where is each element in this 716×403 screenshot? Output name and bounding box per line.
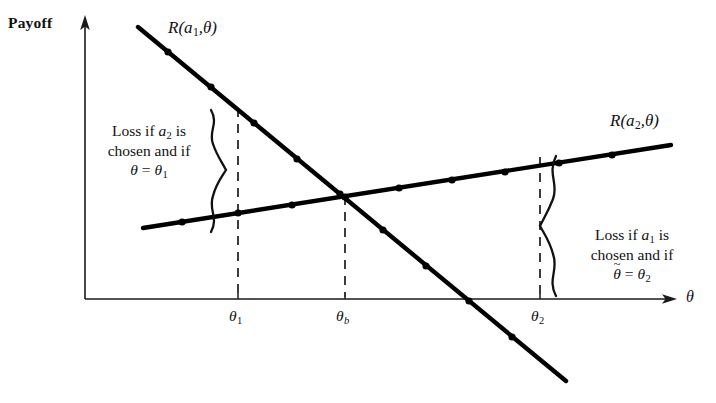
annotation-loss-a2: Loss if a2 is chosen and if θ = θ1 xyxy=(86,122,212,181)
x-axis xyxy=(85,294,677,304)
curve-label-a2-R: R xyxy=(610,111,620,130)
x-tick-label-theta1-symbol: θ xyxy=(229,307,237,324)
annotation-loss-a2-line1: Loss if a2 is xyxy=(86,122,212,142)
annotation-loss-a2-line3: θ = θ1 xyxy=(86,161,212,181)
annotation-loss-a1-line1-pre: Loss if xyxy=(595,226,642,243)
annotation-loss-a1: Loss if a1 is chosen and if ~θ = θ2 xyxy=(566,226,698,285)
figure-canvas xyxy=(0,0,716,403)
annotation-loss-a1-line3-lhs: ~θ xyxy=(613,265,621,283)
annotation-loss-a1-line3-eq: = xyxy=(621,265,638,282)
curve-label-a1-action: a xyxy=(184,18,193,37)
curve-label-a2-close: ) xyxy=(653,111,659,130)
curve-label-a1-R: R xyxy=(168,18,178,37)
curve-label-a1-close: ) xyxy=(211,18,217,37)
brace-loss-a1 xyxy=(540,156,556,296)
x-tick-label-thetab-symbol: θ xyxy=(336,307,344,324)
payoff-regret-figure: Payoff θ R(a1,θ) R(a2,θ) θ1 θb θ2 Loss i… xyxy=(0,0,716,403)
curve-label-a1: R(a1,θ) xyxy=(168,18,217,40)
annotation-loss-a1-line3-rhs: θ xyxy=(637,265,645,282)
payoff-curve-a2 xyxy=(143,145,671,228)
x-tick-label-theta1-sub: 1 xyxy=(237,315,243,326)
annotation-loss-a1-line3-rhs-sub: 2 xyxy=(645,273,651,284)
x-tick-label-thetab-sub: b xyxy=(344,315,350,326)
annotation-loss-a2-line1-post: is xyxy=(172,122,186,139)
annotation-loss-a2-line1-pre: Loss if xyxy=(112,122,159,139)
annotation-loss-a2-line2: chosen and if xyxy=(86,142,212,160)
x-tick-label-theta2-symbol: θ xyxy=(531,307,539,324)
x-axis-ticks xyxy=(238,293,540,299)
annotation-loss-a2-line3-rhs: θ xyxy=(154,161,162,178)
annotation-loss-a1-line1: Loss if a1 is xyxy=(566,226,698,246)
x-tick-label-theta2: θ2 xyxy=(531,307,544,327)
annotation-loss-a2-line3-rhs-sub: 1 xyxy=(162,169,168,180)
annotation-loss-a1-line3: ~θ = θ2 xyxy=(566,265,698,285)
curve-label-a2: R(a2,θ) xyxy=(610,111,659,133)
tilde-accent-icon: ~ xyxy=(613,257,620,270)
annotation-loss-a1-line2: chosen and if xyxy=(566,246,698,264)
curve-label-a2-action: a xyxy=(626,111,635,130)
annotation-loss-a2-line3-eq: = xyxy=(138,161,155,178)
annotation-loss-a1-line1-post: is xyxy=(655,226,669,243)
annotation-loss-a2-line3-lhs: θ xyxy=(130,161,138,178)
x-axis-variable: θ xyxy=(686,288,694,307)
payoff-curve-a1 xyxy=(138,27,566,381)
x-tick-label-thetab: θb xyxy=(336,307,349,327)
y-axis-title: Payoff xyxy=(8,14,52,32)
x-tick-label-theta2-sub: 2 xyxy=(539,315,545,326)
x-tick-label-theta1: θ1 xyxy=(229,307,242,327)
